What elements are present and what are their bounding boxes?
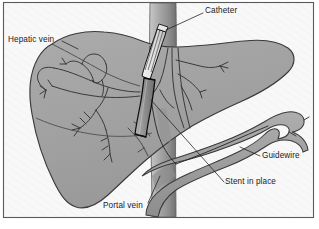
label-portal-vein: Portal vein bbox=[103, 202, 143, 210]
label-hepatic-vein: Hepatic vein bbox=[8, 36, 54, 44]
label-stent-in-place: Stent in place bbox=[225, 178, 276, 186]
figure-root: Hepatic vein Catheter Guidewire Stent in… bbox=[0, 0, 319, 229]
label-catheter: Catheter bbox=[205, 7, 237, 15]
label-guidewire: Guidewire bbox=[262, 152, 300, 160]
